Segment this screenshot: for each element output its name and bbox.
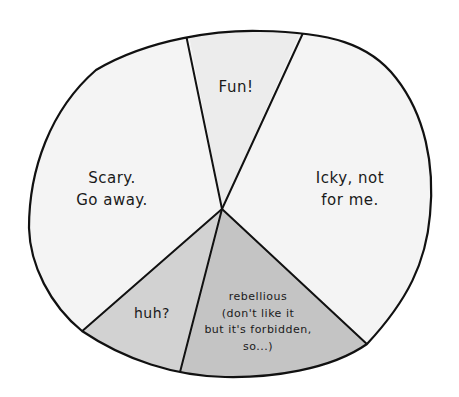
label-huh: huh?: [134, 303, 170, 323]
label-rebellious: rebellious (don't like it but it's forbi…: [204, 289, 311, 355]
label-fun: Fun!: [219, 77, 254, 99]
label-icky: Icky, not for me.: [316, 168, 384, 212]
label-scary: Scary. Go away.: [76, 168, 148, 212]
